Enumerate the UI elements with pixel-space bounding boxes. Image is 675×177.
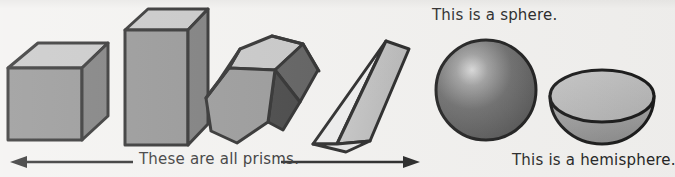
sphere-body — [436, 40, 536, 140]
shape-hemisphere — [550, 70, 654, 144]
hemisphere-caption: This is a hemisphere. — [512, 151, 675, 169]
prisms-arrow-right-head — [403, 156, 420, 168]
shape-hexagonal-prism — [206, 36, 319, 143]
shape-sphere — [436, 40, 536, 140]
hex-front-face — [206, 68, 275, 143]
diagram-page: This is a sphere. This is a hemisphere. … — [0, 0, 675, 177]
sphere-caption: This is a sphere. — [432, 6, 557, 24]
triangular-prism-base-face — [313, 141, 370, 152]
shape-triangular-prism — [313, 41, 409, 152]
cuboid-front-face — [125, 30, 188, 145]
hemisphere-top-face — [550, 70, 654, 122]
cube-front-face — [8, 68, 82, 140]
cuboid-right-face — [188, 9, 208, 145]
shape-rectangular-prism — [125, 9, 208, 145]
prisms-arrow-left-head — [10, 156, 27, 168]
shape-cube — [8, 43, 108, 140]
prisms-caption: These are all prisms. — [139, 150, 299, 168]
